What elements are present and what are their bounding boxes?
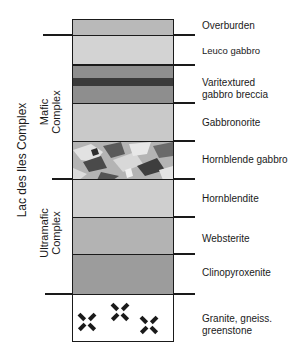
granite-x-mark — [140, 316, 158, 334]
label-varitextured-gabbro-breccia: Varitextured gabbro breccia — [202, 77, 268, 101]
complex-title: Lac des Iles Complex — [16, 103, 28, 218]
label-hornblendite: Hornblendite — [202, 193, 259, 205]
label-gabbronorite: Gabbronorite — [202, 117, 260, 129]
label-hornblende-gabbro: Hornblende gabbro — [202, 154, 288, 166]
dark-band — [73, 78, 173, 86]
granite-x-mark — [111, 303, 129, 321]
tick-line — [174, 178, 195, 180]
label-overburden: Overburden — [202, 20, 255, 32]
tick-line — [174, 253, 195, 255]
group-label-line: Ultramafic — [38, 208, 50, 258]
layer-varitextured-gabbro-breccia — [73, 66, 173, 104]
tick-line — [174, 64, 195, 66]
group-label-line: Mafic — [38, 90, 50, 133]
group-label-ultramafic: Ultramafic Complex — [38, 208, 62, 258]
divider-top-left — [43, 34, 73, 36]
group-label-line: Complex — [50, 208, 62, 258]
label-clinopyroxenite: Clinopyroxenite — [202, 267, 271, 279]
label-granite-gneiss-greenstone: Granite, gneiss. greenstone — [202, 313, 272, 337]
label-line: Varitextured — [202, 77, 268, 89]
divider-mafic-ultramafic-left — [52, 178, 73, 180]
tick-line — [174, 140, 195, 142]
layer-hornblendite — [73, 180, 173, 218]
divider-bottom-left — [45, 293, 73, 295]
label-line: gabbro breccia — [202, 89, 268, 101]
hornblende-texture — [73, 142, 173, 180]
label-line: greenstone — [202, 325, 272, 337]
tick-line — [174, 216, 195, 218]
label-line: Granite, gneiss. — [202, 313, 272, 325]
layer-overburden — [73, 20, 173, 36]
layer-gabbronorite — [73, 104, 173, 142]
tick-line — [174, 293, 195, 295]
tick-line — [174, 102, 195, 104]
granite-x-mark — [78, 313, 96, 331]
label-leuco-gabbro: Leuco gabbro — [202, 45, 260, 57]
stratigraphic-column — [72, 19, 174, 342]
group-label-mafic: Mafic Complex — [38, 90, 62, 133]
layer-websterite — [73, 218, 173, 255]
layer-clinopyroxenite — [73, 255, 173, 295]
layer-leuco-gabbro — [73, 36, 173, 66]
layer-hornblende-gabbro — [73, 142, 173, 180]
group-label-line: Complex — [50, 90, 62, 133]
label-websterite: Websterite — [202, 233, 250, 245]
tick-line — [174, 34, 195, 36]
